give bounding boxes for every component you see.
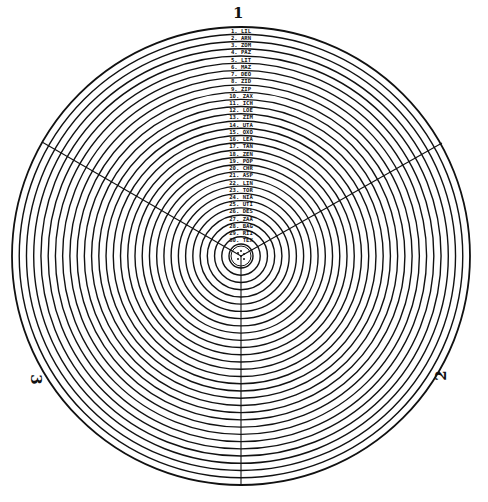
ring-label-29: 29. RII xyxy=(229,230,253,236)
ring-label-4: 4. PAZ xyxy=(231,49,252,55)
ring-label-7: 7. DEO xyxy=(231,71,252,77)
ring-label-18: 18. ZEN xyxy=(229,151,253,157)
concentric-aethyr-diagram: 1. LIL2. ARN3. ZOM4. PAZ5. LIT6. MAZ7. D… xyxy=(0,0,488,502)
ring-label-24: 24. NIA xyxy=(229,194,253,200)
ring-label-6: 6. MAZ xyxy=(231,64,252,70)
ring-label-14: 14. UTA xyxy=(229,122,253,128)
ring-label-9: 9. ZIP xyxy=(231,86,252,92)
ring-label-25: 25. UTI xyxy=(229,201,253,207)
ring-label-1: 1. LIL xyxy=(231,28,252,34)
ring-label-26: 26. DES xyxy=(229,208,253,214)
ring-label-15: 15. OXO xyxy=(229,129,253,135)
ring-label-16: 16. LEA xyxy=(229,136,253,142)
ring-label-17: 17. TAN xyxy=(229,143,253,149)
ring-label-12: 12. LOE xyxy=(229,107,253,113)
ring-label-21: 21. ASP xyxy=(229,172,253,178)
seal-dot xyxy=(243,253,245,255)
ring-label-8: 8. ZID xyxy=(231,78,252,84)
section-label-top: 1 xyxy=(233,6,243,21)
ring-label-28: 28. BAG xyxy=(229,223,253,229)
ring-label-10: 10. ZAX xyxy=(229,93,253,99)
ring-label-13: 13. ZIM xyxy=(229,114,253,120)
ring-label-5: 5. LIT xyxy=(231,57,252,63)
ring-label-3: 3. ZOM xyxy=(231,42,252,48)
ring-label-19: 19. POP xyxy=(229,158,253,164)
ring-label-11: 11. ICH xyxy=(229,100,253,106)
seal-dot xyxy=(243,258,245,260)
section-label-left: 3 xyxy=(28,374,43,384)
ring-label-27: 27. ZAA xyxy=(229,216,253,222)
ring-label-23: 23. TOR xyxy=(229,187,253,193)
section-label-right: 2 xyxy=(434,370,449,380)
seal-dot xyxy=(240,250,242,252)
ring-labels: 1. LIL2. ARN3. ZOM4. PAZ5. LIT6. MAZ7. D… xyxy=(229,28,253,244)
seal-dot xyxy=(237,258,239,260)
ring-label-22: 22. LIN xyxy=(229,180,253,186)
ring-label-30: 30. TEX xyxy=(229,237,253,243)
ring-label-2: 2. ARN xyxy=(231,35,252,41)
seal-dot xyxy=(237,252,239,254)
ring-label-20: 20. CHR xyxy=(229,165,253,171)
seal-dot xyxy=(240,255,242,257)
